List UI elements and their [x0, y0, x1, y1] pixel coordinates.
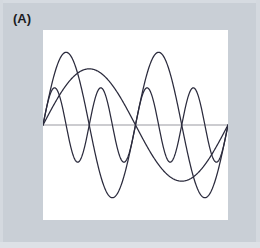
- panel-label: (A): [13, 12, 31, 26]
- plot-area: [43, 30, 228, 220]
- border-edge-bottom: [0, 242, 260, 248]
- border-edge-top: [0, 0, 260, 3]
- border-edge-right: [256, 0, 260, 248]
- figure-panel: (A): [0, 0, 260, 248]
- border-edge-left: [0, 0, 3, 248]
- waveform-chart: [43, 30, 228, 220]
